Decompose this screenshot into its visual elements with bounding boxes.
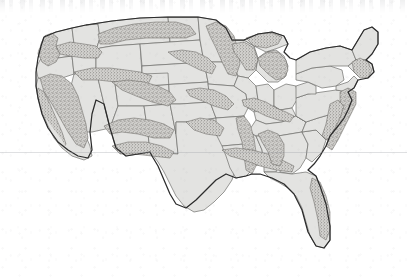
us-map-svg [0, 0, 407, 279]
stipple-new-england-coast [352, 58, 372, 78]
us-thematic-map-figure [0, 0, 407, 279]
stipple-cascade-range [38, 33, 60, 66]
